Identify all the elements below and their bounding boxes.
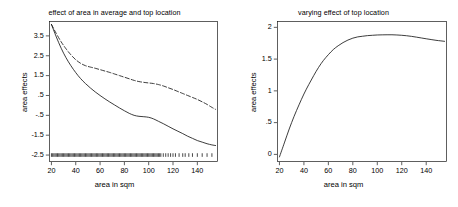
series-line-0: [279, 35, 444, 157]
chart-panel-left: effect of area in average and top locati…: [0, 0, 229, 207]
yaxis-tick-label: 2: [240, 23, 272, 31]
yaxis-tick-label: 1.5: [240, 55, 272, 63]
data-rug: [51, 153, 211, 157]
yaxis-tick-label: 1.5: [12, 71, 44, 79]
yaxis-tick-label: 1: [240, 87, 272, 95]
yaxis-tick-label: -.5: [12, 111, 44, 119]
series-line-1: [51, 24, 215, 145]
series-line-0: [51, 24, 215, 109]
yaxis-tick-label: 3.5: [12, 32, 44, 40]
yaxis-tick-label: -1.5: [12, 131, 44, 139]
xaxis-tick-label: 140: [182, 167, 212, 175]
panel-right-xaxis-title: area in sqm: [229, 180, 458, 189]
yaxis-tick-label: .5: [240, 118, 272, 126]
panel-left-xaxis-title: area in sqm: [0, 180, 229, 189]
yaxis-tick-label: .5: [12, 91, 44, 99]
yaxis-tick-label: 0: [240, 150, 272, 158]
yaxis-tick-label: -2.5: [12, 151, 44, 159]
figure-canvas: effect of area in average and top locati…: [0, 0, 458, 207]
yaxis-tick-label: 2.5: [12, 52, 44, 60]
chart-panel-right: varying effect of top location area in s…: [229, 0, 458, 207]
xaxis-tick-label: 140: [411, 167, 441, 175]
